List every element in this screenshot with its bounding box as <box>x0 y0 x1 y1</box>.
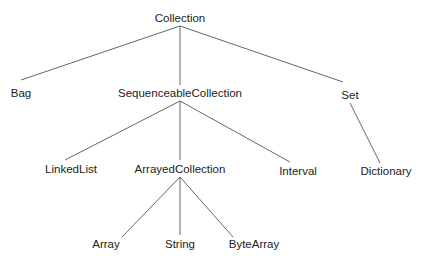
edge-collection-set <box>180 26 343 82</box>
node-bytearray: ByteArray <box>229 237 280 251</box>
edge-collection-bag <box>21 26 180 80</box>
node-sequenceable: SequenceableCollection <box>118 86 242 100</box>
node-array: Array <box>92 237 119 251</box>
node-string: String <box>165 237 195 251</box>
node-arrayed: ArrayedCollection <box>135 162 226 176</box>
edge-set-dictionary <box>350 103 380 163</box>
node-collection: Collection <box>155 11 206 25</box>
node-bag: Bag <box>11 86 31 100</box>
tree-edges <box>0 0 426 262</box>
node-set: Set <box>341 88 358 102</box>
node-interval: Interval <box>279 164 317 178</box>
edge-arrayed-array <box>122 177 180 237</box>
node-linkedlist: LinkedList <box>45 162 97 176</box>
edge-sequenceable-linkedlist <box>65 101 180 160</box>
edge-sequenceable-interval <box>180 101 290 162</box>
node-dictionary: Dictionary <box>360 164 411 178</box>
edge-arrayed-bytearray <box>180 177 233 237</box>
